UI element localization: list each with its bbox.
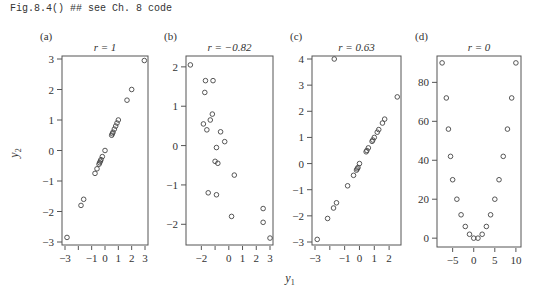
x-tick-label: 0: [357, 252, 363, 264]
data-point: [325, 216, 330, 221]
data-point: [81, 197, 86, 202]
data-point: [467, 232, 472, 237]
data-point: [205, 128, 210, 133]
x-tick-label: −1: [339, 252, 351, 264]
panel-title: r = 0.63: [338, 41, 375, 53]
data-point: [440, 61, 445, 66]
y-tick-label: 20: [418, 193, 430, 205]
data-point: [488, 212, 493, 217]
data-point: [497, 177, 502, 182]
y-tick-label: −3: [292, 236, 304, 248]
x-tick-label: 0: [102, 252, 108, 264]
data-point: [229, 214, 234, 219]
data-point: [480, 232, 485, 237]
data-point: [129, 87, 134, 92]
data-point: [103, 148, 108, 153]
x-tick-label: 0: [226, 252, 232, 264]
shared-ylabel: y2: [7, 148, 23, 158]
panel-title: r = 0: [468, 41, 491, 53]
plot-frame: [62, 56, 148, 245]
x-tick-label: −3: [309, 252, 321, 264]
panel-label: (a): [40, 30, 53, 43]
data-point: [448, 154, 453, 159]
data-point: [331, 206, 336, 211]
y-tick-label: −1: [166, 179, 178, 191]
x-tick-label: −5: [447, 254, 459, 266]
data-point: [345, 183, 350, 188]
data-point: [332, 57, 337, 62]
scatter-panel-d: (d)r = 0−50510020406080: [415, 30, 522, 266]
y-tick-label: 40: [418, 154, 430, 166]
y-tick-label: 4: [299, 53, 305, 65]
data-point: [79, 203, 84, 208]
data-point: [509, 96, 514, 101]
y-tick-label: 3: [299, 79, 305, 91]
data-point: [65, 235, 70, 240]
plot-frame: [312, 56, 401, 245]
data-point: [125, 98, 130, 103]
y-tick-label: 3: [49, 53, 55, 65]
data-point: [211, 78, 216, 83]
data-point: [222, 139, 227, 144]
x-tick-label: 1: [116, 252, 122, 264]
scatter-panel-a: (a)r = 1−3−10123−3−2−10123: [40, 30, 148, 264]
y-tick-label: 1: [49, 114, 55, 126]
data-point: [463, 224, 468, 229]
x-tick-label: −2: [195, 252, 207, 264]
data-point: [484, 224, 489, 229]
data-point: [214, 192, 219, 197]
data-point: [455, 197, 460, 202]
data-point: [514, 61, 519, 66]
plot-frame: [437, 56, 521, 247]
y-tick-label: 1: [299, 131, 305, 143]
shared-xlabel: y1: [284, 271, 294, 287]
y-tick-label: 0: [424, 232, 430, 244]
data-point: [202, 90, 207, 95]
data-point: [206, 191, 211, 196]
data-point: [505, 127, 510, 132]
data-point: [444, 96, 449, 101]
y-tick-label: 1: [173, 100, 179, 112]
x-tick-label: 2: [129, 252, 135, 264]
y-tick-label: −2: [292, 210, 304, 222]
data-point: [315, 237, 320, 242]
x-tick-label: 1: [372, 252, 378, 264]
data-point: [232, 173, 237, 178]
scatter-panel-b: (b)r = −0.82−20123−2−1012: [164, 30, 273, 264]
panel-title: r = 1: [94, 41, 117, 53]
y-tick-label: −3: [42, 236, 54, 248]
panel-title: r = −0.82: [208, 41, 252, 53]
data-point: [459, 212, 464, 217]
data-point: [268, 236, 273, 241]
scatter-panel-c: (c)r = 0.63−3−1012−3−2−101234: [290, 30, 401, 264]
panel-label: (c): [290, 30, 303, 43]
y-tick-label: −1: [42, 175, 54, 187]
data-point: [218, 130, 223, 135]
x-tick-label: 5: [492, 254, 498, 266]
data-point: [261, 220, 266, 225]
data-point: [351, 173, 356, 178]
x-tick-label: 3: [267, 252, 273, 264]
data-point: [210, 112, 215, 117]
data-point: [208, 118, 213, 123]
data-point: [261, 206, 266, 211]
data-point: [382, 117, 387, 122]
x-tick-label: 0: [471, 254, 477, 266]
x-tick-label: 2: [386, 252, 392, 264]
data-point: [493, 197, 498, 202]
data-point: [142, 58, 147, 63]
data-point: [188, 63, 193, 68]
data-point: [450, 177, 455, 182]
data-point: [334, 200, 339, 205]
data-point: [95, 167, 100, 172]
data-point: [501, 154, 506, 159]
y-tick-label: 0: [299, 158, 305, 170]
y-tick-label: 0: [49, 145, 55, 157]
x-tick-label: 2: [254, 252, 260, 264]
x-tick-label: 1: [240, 252, 246, 264]
scatter-panels-figure: (a)r = 1−3−10123−3−2−10123(b)r = −0.82−2…: [0, 0, 548, 299]
y-tick-label: −2: [166, 218, 178, 230]
y-tick-label: −2: [42, 206, 54, 218]
data-point: [395, 95, 400, 100]
panel-label: (d): [415, 30, 428, 43]
